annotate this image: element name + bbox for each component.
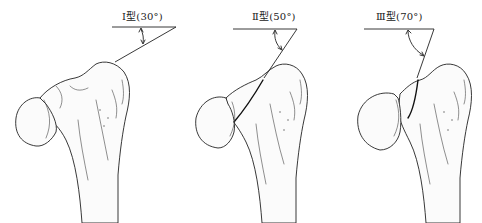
femoral-head [358,93,401,150]
femur-illustration-type-2 [160,0,320,223]
femur-illustration-type-3 [320,0,482,223]
panel-type-2: Ⅱ型(50°) [160,0,320,223]
panel-type-3: Ⅲ型(70°) [320,0,482,223]
femur-body [226,64,308,223]
fracture-line-extension [417,29,434,78]
angle-arc [275,31,281,49]
femur-body [40,62,130,223]
femur-illustration-type-1 [0,0,160,223]
femur-body [398,64,472,223]
panel-type-1: Ⅰ型(30°) [0,0,160,223]
femoral-head [196,97,235,148]
angle-arc [408,31,423,55]
